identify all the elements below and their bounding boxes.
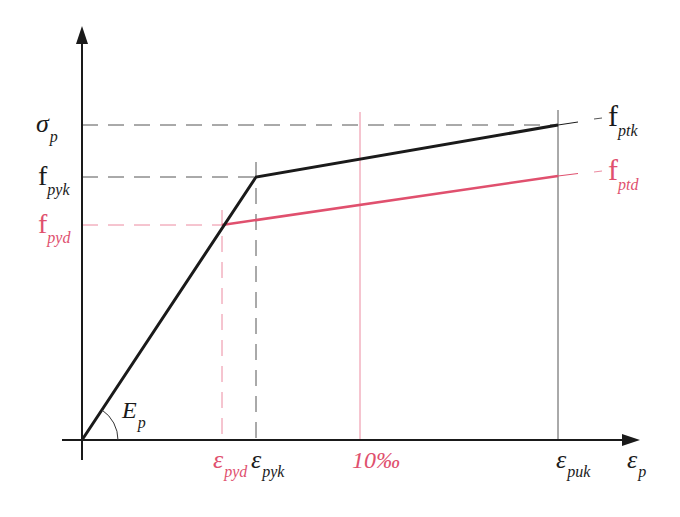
- y-axis-arrow-icon: [76, 26, 88, 44]
- stress-strain-diagram: σp fpyk fpyd fptk fptd Ep εpyd εpyk 10‰ …: [0, 0, 680, 517]
- slope-angle-arc: [102, 410, 118, 440]
- y-axis-labels: σp fpyk fpyd: [36, 109, 71, 247]
- fpyk-label: fpyk: [38, 160, 70, 199]
- epsilon-pyd-label: εpyd: [213, 445, 248, 481]
- epsilon-pyk-label: εpyk: [251, 445, 285, 481]
- fpyd-label: fpyd: [38, 208, 71, 247]
- design-curve: [222, 174, 578, 226]
- ep-slope-label: Ep: [121, 397, 146, 432]
- epsilon-puk-label: εpuk: [556, 445, 591, 481]
- axes: [62, 26, 640, 460]
- characteristic-curve: [82, 122, 578, 440]
- sigma-p-label: σp: [36, 109, 58, 146]
- fptk-dash: [594, 118, 602, 119]
- x-axis-labels: εpyd εpyk 10‰ εpuk εp: [213, 445, 646, 481]
- right-labels: fptk fptd: [608, 99, 639, 194]
- ten-permil-label: 10‰: [352, 447, 400, 473]
- fptd-dash: [594, 171, 602, 172]
- fptk-label: fptk: [608, 99, 638, 140]
- epsilon-p-label: εp: [627, 445, 646, 481]
- fptd-label: fptd: [608, 153, 639, 194]
- guide-lines: [82, 110, 602, 440]
